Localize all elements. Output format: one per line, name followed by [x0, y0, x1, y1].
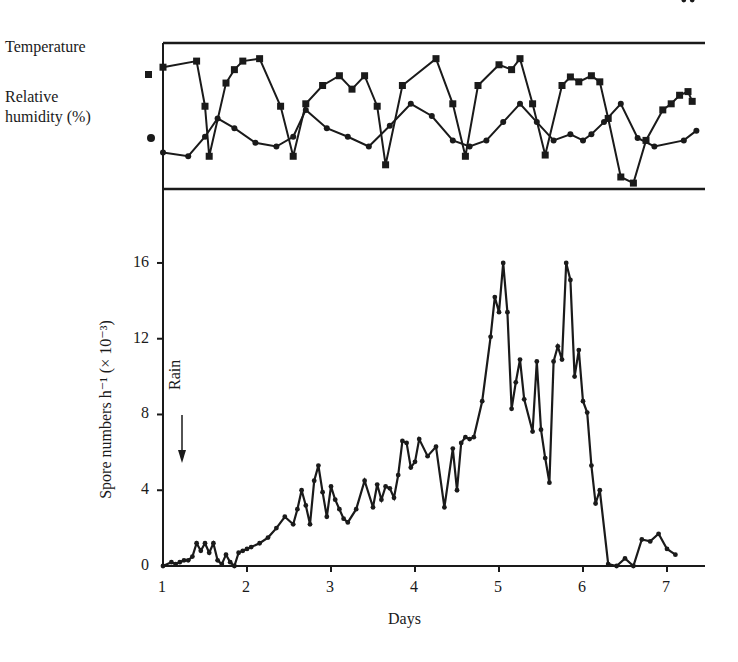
x-tick-3: 3	[326, 578, 334, 596]
y-axis-label: Spore numbers h⁻¹ (× 10⁻³)	[96, 270, 115, 550]
x-tick-5: 5	[494, 578, 502, 596]
y-tick-12: 12	[133, 329, 149, 347]
x-axis-label: Days	[388, 610, 421, 628]
x-tick-6: 6	[578, 578, 586, 596]
y-tick-4: 4	[141, 480, 149, 498]
legend-humidity-label-line1: Relative	[5, 88, 58, 106]
x-tick-7: 7	[662, 578, 670, 596]
rain-annotation: Rain	[166, 360, 184, 390]
legend-humidity-label-line2: humidity (%)	[5, 108, 91, 126]
legend-temperature-label: Temperature	[5, 38, 86, 56]
x-tick-1: 1	[158, 578, 166, 596]
chart-figure: Temperature Relative humidity (%) Days S…	[0, 0, 738, 662]
x-tick-2: 2	[242, 578, 250, 596]
y-tick-16: 16	[133, 253, 149, 271]
x-tick-4: 4	[410, 578, 418, 596]
y-tick-8: 8	[141, 404, 149, 422]
y-tick-0: 0	[141, 556, 149, 574]
